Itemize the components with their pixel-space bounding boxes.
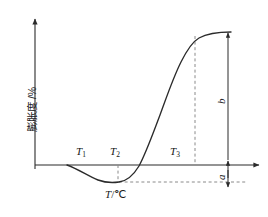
- figure-canvas: [0, 0, 268, 217]
- expansion-curve-figure: 膨胀度 /% T1 T2 T3 b a T/℃: [0, 0, 268, 217]
- x-axis-label: T/℃: [105, 188, 126, 201]
- marker-label-t2: T2: [110, 146, 120, 158]
- expansion-curve: [67, 32, 231, 183]
- y-axis-label: 膨胀度 /%: [24, 87, 39, 132]
- measure-label-b: b: [216, 99, 227, 105]
- marker-label-t3: T3: [170, 146, 180, 158]
- measure-label-a: a: [216, 175, 227, 181]
- marker-label-t1: T1: [76, 146, 86, 158]
